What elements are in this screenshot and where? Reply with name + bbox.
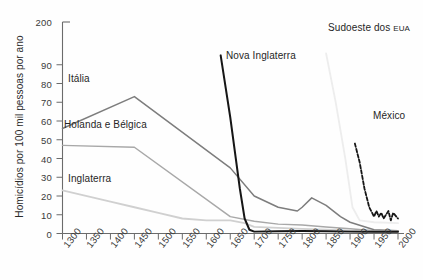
y-axis-ticks: [57, 65, 63, 234]
series-lines: [63, 54, 399, 232]
series-label-holanda-belgica: Holanda e Bélgica: [64, 119, 147, 130]
y-tick-label: 10: [18, 209, 52, 220]
y-tick-label: 50: [18, 134, 52, 145]
series-label-mexico: México: [373, 110, 405, 121]
y-tick-label: 40: [18, 153, 52, 164]
y-tick-label: 60: [18, 116, 52, 127]
series-line: [355, 144, 398, 221]
series-line: [326, 54, 398, 224]
y-tick-label: 20: [18, 191, 52, 202]
series-line: [63, 145, 399, 231]
y-tick-label: 200: [18, 17, 52, 28]
series-line: [221, 55, 398, 231]
series-label-inglaterra: Inglaterra: [68, 173, 111, 184]
series-line: [63, 190, 399, 231]
sudoeste-text: Sudoeste dos: [328, 22, 393, 33]
y-tick-label: 80: [18, 78, 52, 89]
eua-abbrev: EUA: [393, 24, 410, 33]
homicide-rate-chart: Homicídios por 100 mil pessoas por ano 2…: [0, 0, 423, 280]
y-tick-label: 70: [18, 97, 52, 108]
series-label-sudoeste-eua: Sudoeste dos EUA: [328, 22, 410, 33]
y-tick-label: 90: [18, 59, 52, 70]
y-tick-label: 0: [18, 228, 52, 239]
series-label-nova-inglaterra: Nova Inglaterra: [226, 50, 296, 61]
y-tick-label: 30: [18, 172, 52, 183]
series-label-italia: Itália: [68, 73, 90, 84]
